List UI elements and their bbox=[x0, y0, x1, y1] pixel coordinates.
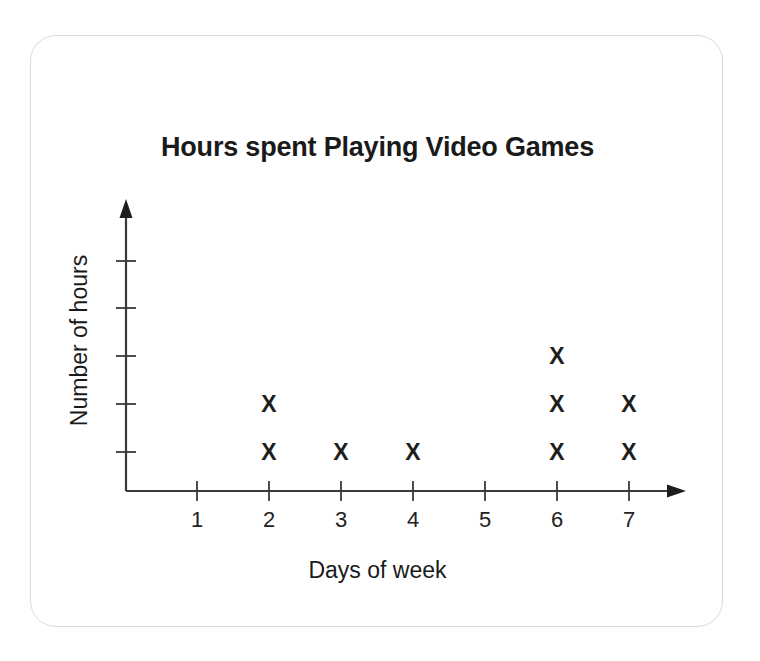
data-point-marker: X bbox=[615, 390, 643, 418]
x-tick-label-7: 7 bbox=[609, 507, 649, 533]
data-point-marker: X bbox=[327, 438, 355, 466]
chart-page: Hours spent Playing Video Games bbox=[0, 0, 760, 661]
data-point-marker: X bbox=[615, 438, 643, 466]
x-axis-label: Days of week bbox=[31, 557, 724, 584]
plot-area: 1 2 3 4 5 6 7 XXXXXXXXX Number of hours … bbox=[31, 36, 724, 628]
data-point-marker: X bbox=[255, 390, 283, 418]
x-tick-label-2: 2 bbox=[249, 507, 289, 533]
y-axis-arrow bbox=[120, 199, 133, 218]
y-axis-label: Number of hours bbox=[66, 231, 93, 451]
data-point-marker: X bbox=[543, 438, 571, 466]
data-point-marker: X bbox=[399, 438, 427, 466]
x-axis-arrow bbox=[667, 485, 686, 498]
axes-svg bbox=[31, 36, 724, 628]
data-point-marker: X bbox=[255, 438, 283, 466]
x-tick-label-3: 3 bbox=[321, 507, 361, 533]
x-tick-label-5: 5 bbox=[465, 507, 505, 533]
x-tick-label-6: 6 bbox=[537, 507, 577, 533]
chart-card: Hours spent Playing Video Games bbox=[30, 35, 723, 627]
data-point-marker: X bbox=[543, 342, 571, 370]
x-tick-label-4: 4 bbox=[393, 507, 433, 533]
x-tick-label-1: 1 bbox=[177, 507, 217, 533]
data-point-marker: X bbox=[543, 390, 571, 418]
